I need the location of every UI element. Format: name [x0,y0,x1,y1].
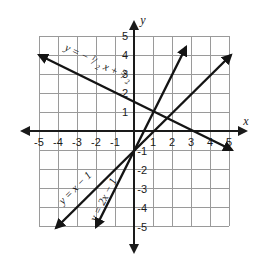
x-axis-label: x [242,114,249,128]
x-tick: -3 [72,136,82,148]
y-tick: -2 [137,164,147,176]
eq1-frac1-den: 2 [94,62,102,72]
y-axis-label: y [139,13,146,27]
y-tick: 4 [122,49,128,61]
x-tick: -1 [110,136,120,148]
line-neg-half-x-plus-three-halves [39,55,232,150]
x-tick: -2 [91,136,101,148]
y-tick: -5 [137,221,147,233]
y-tick: 5 [122,30,128,42]
y-tick: -3 [137,183,147,195]
eq1-frac2-den: 2 [124,77,132,87]
equation-label-1: y = − 1 / 2 x + 3 / 2 [61,37,136,87]
x-tick: -5 [34,136,44,148]
x-tick: -4 [53,136,63,148]
svg-text:y = − 1 /: y = − 1 / 2 x + 3 / 2 [61,37,136,87]
y-tick: -4 [137,202,147,214]
x-tick: 3 [188,136,194,148]
eq1-mid: x + [101,59,121,77]
y-tick: 1 [122,106,128,118]
graph-figure: x y -5 -4 -3 -2 -1 1 2 3 4 5 5 4 3 2 1 -… [0,0,273,266]
x-tick: 2 [169,136,175,148]
x-tick: 1 [150,136,156,148]
coordinate-plane: x y -5 -4 -3 -2 -1 1 2 3 4 5 5 4 3 2 1 -… [0,0,273,266]
